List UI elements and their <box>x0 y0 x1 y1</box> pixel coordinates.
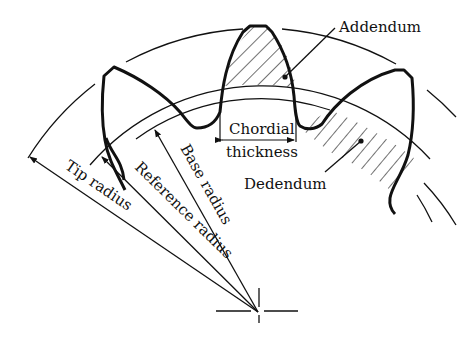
addendum-leader <box>285 28 335 77</box>
gear-diagram: Chordial thickness Addendum Dedendum Tip… <box>0 0 476 343</box>
center-crosshair <box>216 288 298 323</box>
addendum-label: Addendum <box>338 18 421 36</box>
thickness-label: thickness <box>226 143 298 161</box>
dedendum-label: Dedendum <box>244 175 327 193</box>
chordial-label: Chordial <box>229 120 295 138</box>
